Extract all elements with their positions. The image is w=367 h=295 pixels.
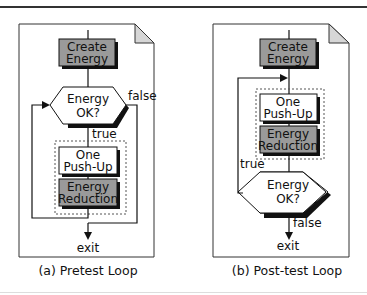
svg-text:OK?: OK? [276,192,300,206]
svg-text:Push-Up: Push-Up [63,160,112,174]
one-pushup-box: One Push-Up [260,94,320,124]
svg-text:Energy: Energy [267,178,309,192]
caption-pretest: (a) Pretest Loop [38,263,137,278]
false-label: false [128,89,157,103]
svg-text:Reduction: Reduction [58,192,118,206]
true-label: true [240,157,265,171]
decision-hexagon: Energy OK? [50,87,129,128]
svg-text:OK?: OK? [76,106,100,120]
caption-posttest: (b) Post-test Loop [232,263,342,278]
false-label: false [293,216,322,230]
svg-text:Push-Up: Push-Up [263,107,312,121]
page-fold-icon [329,24,349,43]
energy-reduction-box: Energy Reduction [258,126,320,156]
svg-text:Energy: Energy [67,92,109,106]
svg-text:Energy: Energy [267,52,309,66]
panel-pretest: Create Energy Energy OK? false true One … [19,24,157,278]
create-energy-box: Create Energy [59,39,118,69]
create-energy-box: Create Energy [260,39,319,69]
exit-label: exit [77,241,100,255]
true-label: true [92,127,117,141]
page-fold-icon [135,24,154,43]
svg-text:Reduction: Reduction [258,139,318,153]
flowchart-canvas: Create Energy Energy OK? false true One … [0,0,367,295]
bottom-rule [0,292,367,293]
energy-reduction-box: Energy Reduction [58,179,120,209]
exit-label: exit [277,239,300,253]
svg-text:Energy: Energy [66,52,108,66]
one-pushup-box: One Push-Up [59,147,120,177]
panel-posttest: Create Energy One Push-Up Energy Reducti… [213,24,349,278]
